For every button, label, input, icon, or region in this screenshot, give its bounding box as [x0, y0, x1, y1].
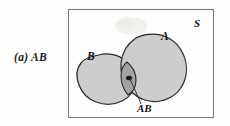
intersection-marker-dot: [126, 76, 132, 81]
venn-diagram-canvas: S A B AB: [0, 0, 230, 126]
label-set-b: B: [86, 50, 95, 62]
label-set-a: A: [160, 30, 169, 42]
label-sample-space-s: S: [194, 17, 200, 29]
figure-root: (a) AB S A B AB: [0, 0, 230, 126]
paper-smudge-secondary: [117, 19, 135, 29]
label-intersection-ab: AB: [136, 102, 152, 114]
